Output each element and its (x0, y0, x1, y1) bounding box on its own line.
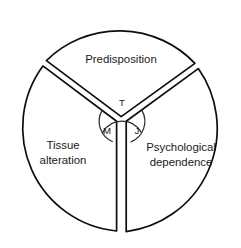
diagram-canvas: Predisposition Tissue alteration Psychol… (0, 0, 241, 248)
core-segment-label-t: T (119, 97, 125, 108)
predisposition-label: Predisposition (85, 53, 157, 65)
three-sector-circle-diagram: Predisposition Tissue alteration Psychol… (0, 0, 241, 248)
tissue-alteration-label-line2: alteration (40, 154, 87, 166)
psychological-dependence-label-line2: dependence (150, 156, 213, 168)
core-segment-label-j: J (135, 125, 140, 136)
tissue-alteration-label-line1: Tissue (46, 139, 79, 151)
psychological-dependence-label-line1: Psychological (146, 141, 216, 153)
core-segment-label-m: M (103, 125, 111, 136)
